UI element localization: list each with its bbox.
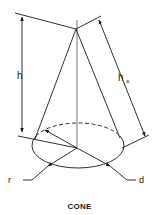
diameter-label: d bbox=[139, 175, 144, 185]
slant-extension-top bbox=[76, 16, 101, 29]
radius-label: r bbox=[8, 175, 11, 185]
radius-arrow bbox=[48, 148, 77, 166]
cone-side-left bbox=[35, 29, 76, 139]
radius-leader bbox=[23, 166, 48, 180]
base-ellipse-front bbox=[32, 146, 124, 168]
cone-side-right bbox=[76, 29, 120, 138]
cone-diagram: h h s r d bbox=[0, 0, 159, 215]
radius-arrow-back bbox=[45, 130, 77, 148]
height-label: h bbox=[17, 70, 23, 81]
height-extension-top bbox=[15, 13, 76, 29]
slant-height-label-sub: s bbox=[126, 78, 129, 84]
base-ellipse-back bbox=[36, 123, 120, 136]
diameter-leader bbox=[110, 166, 136, 180]
height-extension-bottom bbox=[18, 136, 77, 148]
figure-caption: CONE bbox=[0, 202, 159, 211]
slant-height-label: h s bbox=[118, 72, 129, 84]
diameter-arrow bbox=[77, 148, 110, 166]
slant-extension-bottom bbox=[122, 135, 149, 148]
base-ellipse-right-edge bbox=[120, 136, 124, 146]
slant-height-label-main: h bbox=[118, 72, 124, 83]
